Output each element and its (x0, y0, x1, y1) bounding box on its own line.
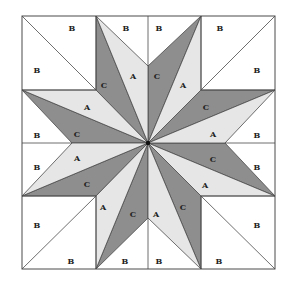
piece-label-a: A (201, 180, 209, 190)
piece-label-a: A (152, 209, 160, 219)
piece-label-a: A (209, 129, 217, 139)
piece-label-b: B (254, 162, 261, 172)
piece-label-b: B (123, 23, 130, 33)
piece-label-b: B (34, 65, 41, 75)
piece-label-b: B (254, 130, 261, 140)
piece-label-b: B (156, 256, 163, 266)
piece-label-c: C (203, 102, 209, 112)
piece-label-a: A (73, 153, 81, 163)
piece-label-b: B (217, 23, 224, 33)
piece-label-c: C (154, 71, 160, 81)
piece-label-b: B (34, 220, 41, 230)
piece-label-c: C (180, 202, 186, 212)
piece-label-b: B (122, 256, 129, 266)
piece-label-b: B (34, 130, 41, 140)
center-point (146, 141, 150, 145)
quilt-block-svg: BBBBBBCACAACBCABACBBCAACCABBBBBB (0, 0, 294, 284)
piece-label-c: C (74, 129, 80, 139)
piece-label-b: B (69, 23, 76, 33)
piece-label-a: A (83, 102, 91, 112)
piece-label-a: A (179, 80, 187, 90)
piece-label-a: A (129, 71, 137, 81)
piece-label-c: C (84, 179, 90, 189)
piece-label-b: B (254, 220, 261, 230)
piece-label-b: B (68, 256, 75, 266)
piece-label-b: B (156, 23, 163, 33)
piece-label-b: B (34, 162, 41, 172)
quilt-diagram: BBBBBBCACAACBCABACBBCAACCABBBBBB (0, 0, 294, 284)
piece-label-b: B (216, 256, 223, 266)
piece-label-c: C (101, 80, 107, 90)
piece-label-b: B (254, 65, 261, 75)
piece-label-a: A (99, 202, 107, 212)
piece-label-c: C (130, 209, 136, 219)
piece-label-c: C (210, 154, 216, 164)
